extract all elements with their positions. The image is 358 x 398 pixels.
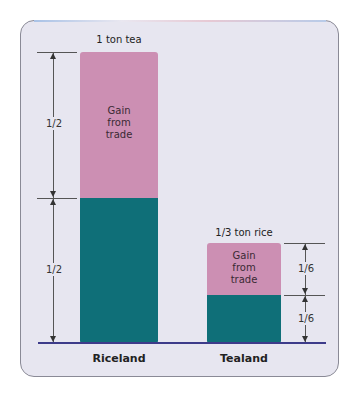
riceland-mid-tick: [37, 198, 77, 199]
riceland-gain-label: Gain from trade: [80, 105, 158, 141]
riceland-top-tick: [37, 52, 77, 53]
tealand-top-label: 1/3 ton rice: [200, 227, 288, 238]
riceland-country-label: Riceland: [80, 352, 158, 365]
panel-top-accent: [34, 20, 326, 22]
tealand-upper-fraction: 1/6: [295, 262, 317, 275]
tealand-country-label: Tealand: [207, 352, 281, 365]
arrow-up-icon: [50, 199, 56, 205]
riceland-upper-fraction: 1/2: [43, 117, 65, 130]
arrow-down-icon: [50, 191, 56, 197]
tealand-bar: Gain from trade: [207, 243, 281, 343]
tealand-lower-fraction: 1/6: [295, 312, 317, 325]
riceland-bar: Gain from trade: [80, 52, 158, 343]
riceland-lower-fraction: 1/2: [43, 263, 65, 276]
arrow-up-icon: [302, 244, 308, 250]
tealand-base-segment: [207, 295, 281, 343]
baseline-axis: [38, 342, 326, 344]
tealand-gain-label: Gain from trade: [207, 250, 281, 286]
arrow-down-icon: [302, 288, 308, 294]
riceland-base-segment: [80, 198, 158, 343]
riceland-gain-segment: Gain from trade: [80, 52, 158, 198]
arrow-up-icon: [302, 296, 308, 302]
tealand-gain-segment: Gain from trade: [207, 243, 281, 295]
riceland-top-label: 1 ton tea: [80, 34, 158, 45]
arrow-up-icon: [50, 53, 56, 59]
